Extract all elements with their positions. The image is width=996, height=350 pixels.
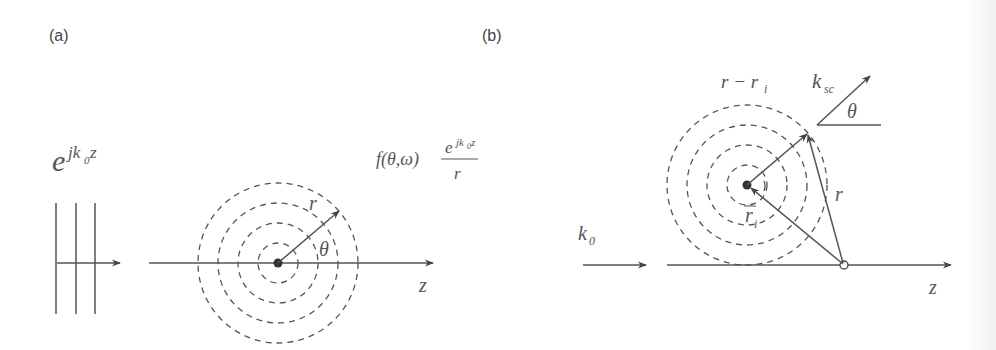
svg-text:e: e: [52, 144, 65, 177]
z-axis-label-a: z: [418, 274, 427, 296]
z-axis-label-b: z: [928, 276, 937, 298]
svg-text:jk: jk: [66, 143, 81, 162]
position-label-ri: r: [745, 204, 753, 226]
observation-label-r: r: [835, 183, 843, 205]
scattered-k-label: k: [812, 69, 822, 93]
panel-a-label: (a): [49, 27, 69, 44]
plane-wavefronts: [56, 203, 120, 314]
scattered-wave-formula: f(θ,ω) e jk 0 z r: [376, 136, 478, 183]
radius-vector-a: [278, 211, 339, 263]
svg-text:i: i: [754, 217, 757, 231]
angle-arc-b: [764, 181, 765, 191]
svg-text:f(θ,ω): f(θ,ω): [376, 149, 419, 170]
relative-distance-label: r − r: [721, 71, 759, 92]
panel-a: (a) e jk 0 z z r θ: [49, 27, 478, 343]
angle-label-a: θ: [319, 238, 329, 260]
panel-b-label: (b): [482, 27, 502, 44]
position-vector-ri: [751, 188, 843, 264]
svg-text:0: 0: [589, 234, 595, 248]
svg-text:e: e: [445, 138, 453, 157]
svg-text:z: z: [89, 143, 97, 162]
svg-text:i: i: [764, 82, 767, 96]
page-edge-shadow: [966, 0, 996, 350]
svg-text:r: r: [454, 164, 461, 183]
angle-label-b: θ: [847, 100, 857, 122]
svg-text:sc: sc: [824, 82, 835, 96]
radius-label-a: r: [309, 192, 317, 214]
panel-b: (b) k 0 z r i r r − r i: [482, 27, 951, 298]
relative-vector: [747, 134, 807, 185]
incident-wave-label: e jk 0 z: [52, 143, 97, 177]
figure-canvas: (a) e jk 0 z z r θ: [0, 0, 996, 350]
svg-text:z: z: [470, 136, 476, 148]
svg-text:jk: jk: [454, 136, 465, 148]
incident-k-label: k: [578, 222, 588, 244]
